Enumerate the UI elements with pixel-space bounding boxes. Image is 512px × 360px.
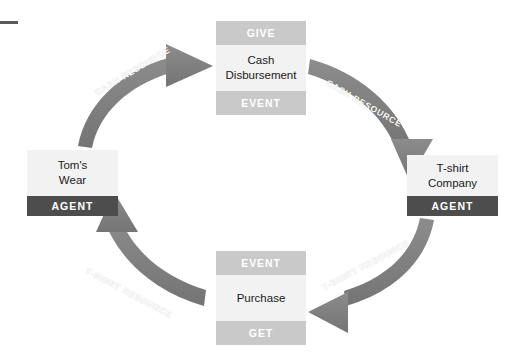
- node-purchase-label-line1: Purchase: [237, 291, 286, 306]
- node-cash-disbursement-event-band: EVENT: [216, 91, 306, 115]
- arrow-toms-wear-to-cash-disbursement: [78, 44, 213, 148]
- node-tshirt-company-label-line2: Company: [428, 176, 477, 191]
- node-purchase-label: Purchase: [216, 275, 306, 321]
- node-purchase: EVENT Purchase GET: [216, 251, 306, 345]
- node-cash-disbursement-label-line1: Cash: [226, 53, 297, 68]
- node-purchase-get-band: GET: [216, 321, 306, 345]
- node-cash-disbursement-label-line2: Disbursement: [226, 68, 297, 83]
- arrow-tshirt-company-to-purchase: [308, 218, 434, 333]
- node-toms-wear-label: Tom's Wear: [27, 150, 118, 196]
- rea-cycle-diagram: CASH RESOURCE CASH RESOURCE T-SHIRT RESO…: [0, 0, 512, 360]
- node-cash-disbursement-label: Cash Disbursement: [216, 45, 306, 91]
- node-toms-wear-label-line1: Tom's: [58, 158, 88, 173]
- node-cash-disbursement: GIVE Cash Disbursement EVENT: [216, 21, 306, 115]
- node-tshirt-company: T-shirt Company AGENT: [407, 155, 498, 216]
- node-tshirt-company-label: T-shirt Company: [407, 155, 498, 196]
- node-purchase-event-band: EVENT: [216, 251, 306, 275]
- node-toms-wear-label-line2: Wear: [58, 173, 88, 188]
- node-toms-wear: Tom's Wear AGENT: [27, 150, 118, 216]
- node-tshirt-company-label-line1: T-shirt: [428, 161, 477, 176]
- node-cash-disbursement-give-band: GIVE: [216, 21, 306, 45]
- node-toms-wear-agent-band: AGENT: [27, 196, 118, 216]
- node-tshirt-company-agent-band: AGENT: [407, 196, 498, 216]
